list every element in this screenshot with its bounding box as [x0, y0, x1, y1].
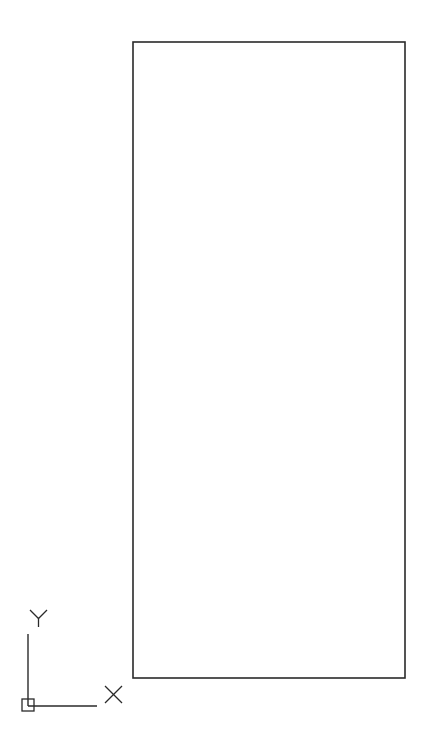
ucs-icon: Y X — [22, 610, 122, 711]
x-axis-label — [105, 686, 122, 703]
x-axis-label-text: X — [113, 696, 114, 697]
rectangle-outline[interactable] — [133, 42, 405, 678]
drawing-canvas[interactable]: Y X — [0, 0, 426, 747]
y-axis-label — [30, 610, 47, 627]
